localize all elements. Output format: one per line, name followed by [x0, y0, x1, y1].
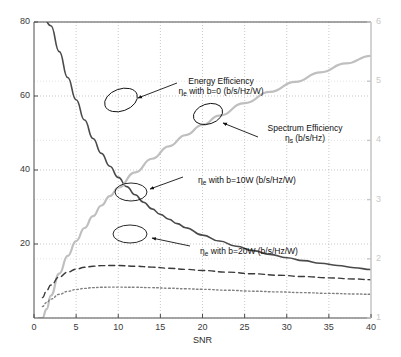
y-tick-label: 20: [6, 238, 30, 248]
y-tick-label: 60: [6, 90, 30, 100]
y2-tick-label: 2: [376, 253, 381, 263]
x-axis-label: SNR: [34, 335, 371, 345]
x-tick-label: 20: [191, 322, 215, 332]
annotation-label-eta-e-b10w: ηe with b=10W (b/s/Hz/W): [147, 175, 347, 186]
y2-tick-label: 5: [376, 75, 381, 85]
annotation-line1: Spectrum Efficiency: [268, 123, 343, 133]
annotation-arrow-eta-e-b20w: [152, 238, 190, 246]
x-tick-label: 30: [275, 322, 299, 332]
annotation-line2: ηe with b=0 (b/s/Hz/W): [178, 86, 263, 96]
annotation-line2: ηs (b/s/Hz): [285, 133, 325, 143]
y2-tick-label: 6: [376, 16, 381, 26]
annotation-ellipse-eta-e-b20w: [113, 225, 147, 243]
y-tick-label: 80: [6, 16, 30, 26]
annotation-label-eta-e-b20w: ηe with b=20W (b/s/Hz/W): [149, 246, 349, 257]
series-line-3: [42, 287, 371, 306]
x-tick-label: 35: [317, 322, 341, 332]
x-tick-label: 0: [22, 322, 46, 332]
y2-tick-label: 1: [376, 312, 381, 322]
x-tick-label: 25: [233, 322, 257, 332]
annotation-line2: ηe with b=20W (b/s/Hz/W): [200, 246, 298, 256]
x-tick-label: 15: [148, 322, 172, 332]
chart-figure: 051015202530354020406080123456SNREnergy …: [0, 0, 401, 357]
annotation-label-spectrum-efficiency: Spectrum Efficiencyηs (b/s/Hz): [205, 123, 401, 144]
annotation-line2: ηe with b=10W (b/s/Hz/W): [198, 175, 296, 185]
y2-tick-label: 3: [376, 194, 381, 204]
annotation-label-energy-efficiency-b0: Energy Efficiencyηe with b=0 (b/s/Hz/W): [121, 76, 321, 97]
y-tick-label: 40: [6, 164, 30, 174]
x-tick-label: 40: [359, 322, 383, 332]
x-tick-label: 5: [64, 322, 88, 332]
x-tick-label: 10: [106, 322, 130, 332]
annotation-line1: Energy Efficiency: [188, 76, 254, 86]
